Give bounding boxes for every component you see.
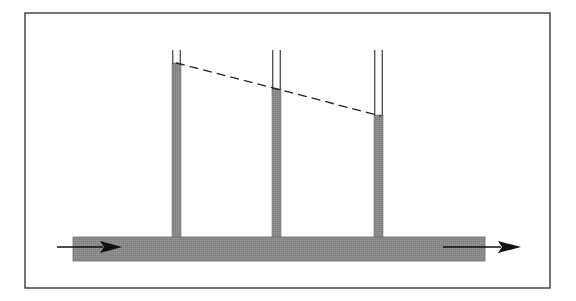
tube-1-fluid-column [172, 63, 181, 239]
tube-2-fluid-column [272, 89, 281, 239]
pipe-piezometer-diagram [0, 0, 576, 301]
figure-root [0, 0, 576, 301]
piezometer-tube-1 [172, 50, 181, 239]
horizontal-pipe [73, 237, 485, 261]
tube-3-fluid-column [374, 115, 383, 239]
